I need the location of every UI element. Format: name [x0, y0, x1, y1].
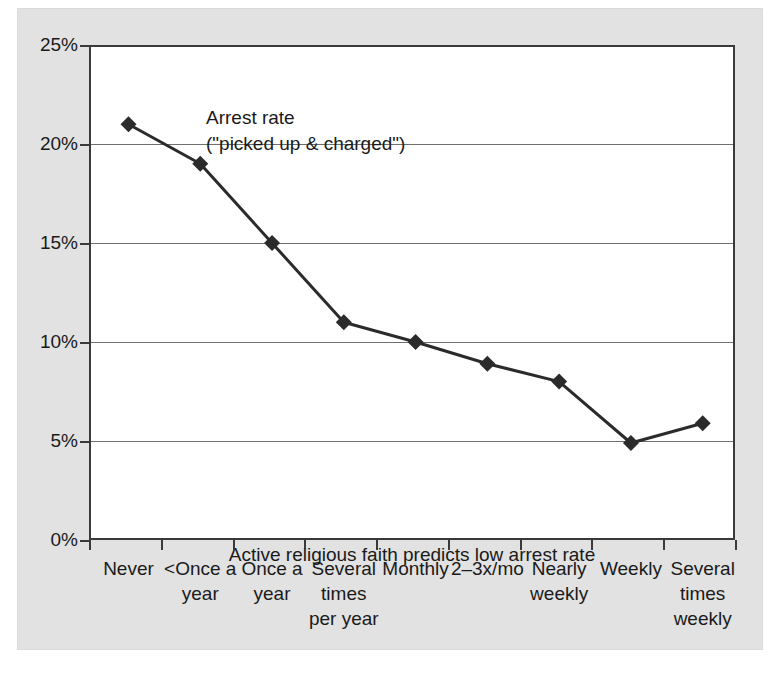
y-axis-tick-label: 15%	[8, 232, 78, 254]
y-axis-tick-mark	[80, 540, 89, 542]
x-axis-category-label: Several times per year	[309, 556, 379, 631]
x-axis-tick-mark	[735, 540, 737, 550]
x-axis-category-label: Weekly	[600, 556, 662, 581]
x-axis-category-label: Several times weekly	[670, 556, 734, 631]
y-axis-tick-mark	[80, 441, 89, 443]
y-axis-tick-mark	[80, 144, 89, 146]
x-axis-category-label: <Once a year	[164, 556, 236, 606]
x-axis-category-label: Monthly	[382, 556, 449, 581]
y-axis: 0%5%10%15%20%25%	[0, 45, 78, 540]
y-axis-tick-label: 5%	[8, 430, 78, 452]
gridline	[91, 441, 733, 442]
x-axis-tick-mark	[233, 540, 235, 550]
x-axis-category-label: Never	[103, 556, 154, 581]
y-axis-tick-label: 25%	[8, 34, 78, 56]
gridline	[91, 243, 733, 244]
x-axis-tick-mark	[591, 540, 593, 550]
y-axis-tick-mark	[80, 243, 89, 245]
y-axis-tick-mark	[80, 45, 89, 47]
x-axis-tick-mark	[663, 540, 665, 550]
plot-area: Arrest rate ("picked up & charged") Acti…	[89, 45, 735, 540]
x-axis-tick-mark	[520, 540, 522, 550]
x-axis-tick-mark	[161, 540, 163, 550]
chart-figure: 0%5%10%15%20%25% Arrest rate ("picked up…	[0, 0, 781, 676]
x-axis-tick-mark	[376, 540, 378, 550]
x-axis-category-label: Nearly weekly	[530, 556, 588, 606]
y-axis-tick-label: 0%	[8, 529, 78, 551]
series-label-annotation: Arrest rate ("picked up & charged")	[206, 105, 405, 157]
y-axis-tick-label: 10%	[8, 331, 78, 353]
x-axis-category-label: 2–3x/mo	[451, 556, 524, 581]
y-axis-tick-label: 20%	[8, 133, 78, 155]
x-axis-category-label: Once a year	[241, 556, 302, 606]
x-axis-tick-mark	[448, 540, 450, 550]
y-axis-tick-mark	[80, 342, 89, 344]
x-axis-tick-mark	[304, 540, 306, 550]
gridline	[91, 342, 733, 343]
gridline	[91, 144, 733, 145]
x-axis-tick-mark	[89, 540, 91, 550]
